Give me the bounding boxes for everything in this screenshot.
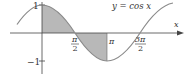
x-tick-label-pi-half-num: π <box>71 35 78 44</box>
y-tick-label-neg1: −1 <box>27 57 40 67</box>
x-tick-label-3pi-half-num: 3π <box>135 35 146 44</box>
cosine-graph: 1 −1 π 2 π 3π 2 x y = cos x <box>0 0 189 77</box>
x-tick-label-pi: π <box>108 37 115 46</box>
x-tick-label-3pi-half-den: 2 <box>138 44 143 53</box>
y-tick-label-1: 1 <box>33 1 39 11</box>
x-axis-arrow-icon <box>177 31 184 36</box>
x-axis-label: x <box>174 20 179 29</box>
x-tick-label-pi-half-den: 2 <box>73 44 78 53</box>
curve-label: y = cos x <box>111 1 151 11</box>
